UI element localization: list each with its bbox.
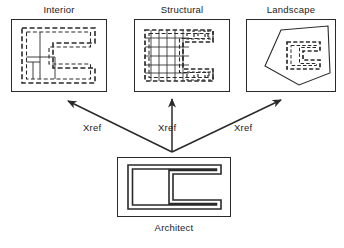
xref-diagram: Interior Structural Landscape Architect … <box>0 0 344 248</box>
panel-structural[interactable] <box>135 20 230 92</box>
xref-arrow-landscape[interactable] <box>172 100 281 152</box>
panel-title-interior: Interior <box>11 4 107 15</box>
panel-architect[interactable] <box>118 158 231 217</box>
panel-title-structural: Structural <box>134 4 230 15</box>
panel-interior[interactable] <box>12 20 107 92</box>
xref-label-interior: Xref <box>83 122 101 133</box>
panel-title-landscape: Landscape <box>246 4 336 15</box>
xref-label-structural: Xref <box>158 122 176 133</box>
xref-label-landscape: Xref <box>234 122 252 133</box>
panel-title-architect: Architect <box>117 222 231 233</box>
panel-landscape[interactable] <box>247 20 336 92</box>
